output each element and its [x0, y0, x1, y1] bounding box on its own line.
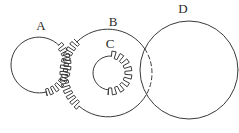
gear-labels: A B C D [36, 1, 187, 51]
circle-b-outline [60, 29, 146, 117]
label-circle-a: A [36, 18, 46, 33]
label-circle-d: D [178, 1, 187, 16]
circle-d-outline [140, 21, 238, 119]
label-circle-b: B [109, 14, 118, 29]
label-circle-c: C [106, 36, 115, 51]
gear-diagram: A B C D [0, 0, 239, 133]
circle-b-hidden-arc [145, 49, 152, 95]
gear-outlines [11, 21, 238, 119]
gear-diagram-svg: A B C D [0, 0, 239, 133]
circle-c-outline [93, 51, 132, 95]
